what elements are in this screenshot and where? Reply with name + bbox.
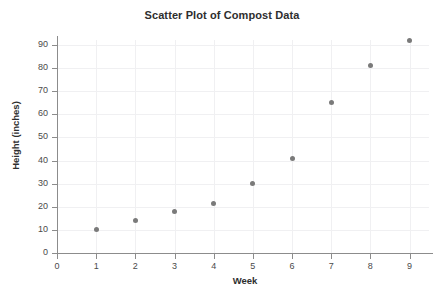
gridline-horizontal (57, 230, 429, 231)
x-axis-label: Week (57, 275, 433, 286)
gridline-horizontal (57, 114, 429, 115)
gridline-vertical (370, 40, 371, 253)
gridline-vertical (253, 40, 254, 253)
gridline-vertical (410, 40, 411, 253)
x-axis-tick-label: 1 (86, 261, 106, 271)
y-axis-tick (52, 114, 57, 115)
x-axis-tick-label: 8 (360, 261, 380, 271)
x-axis-tick-label: 4 (204, 261, 224, 271)
y-axis-tick-label: 70 (18, 85, 48, 95)
x-axis-tick (96, 254, 97, 259)
y-axis-tick-label: 50 (18, 131, 48, 141)
y-axis-tick-label: 20 (18, 201, 48, 211)
x-axis-tick-label: 5 (243, 261, 263, 271)
y-axis-tick-label: 80 (18, 62, 48, 72)
x-axis-tick (175, 254, 176, 259)
scatter-plot-figure: Scatter Plot of Compost Data Height (inc… (0, 0, 444, 295)
data-point (290, 156, 295, 161)
chart-title: Scatter Plot of Compost Data (0, 9, 444, 21)
x-axis-line (57, 253, 433, 254)
y-axis-tick (52, 91, 57, 92)
x-axis-tick (135, 254, 136, 259)
x-axis-tick (370, 254, 371, 259)
x-axis-tick-label: 0 (47, 261, 67, 271)
gridline-horizontal (57, 68, 429, 69)
data-point (250, 181, 255, 186)
y-axis-tick-label: 60 (18, 108, 48, 118)
x-axis-tick (253, 254, 254, 259)
gridline-horizontal (57, 137, 429, 138)
x-axis-tick (331, 254, 332, 259)
gridline-horizontal (57, 91, 429, 92)
y-axis-tick (52, 230, 57, 231)
y-axis-tick (52, 207, 57, 208)
x-axis-tick-label: 9 (400, 261, 420, 271)
y-axis-tick-label: 40 (18, 155, 48, 165)
x-axis-tick-label: 2 (125, 261, 145, 271)
plot-area (57, 40, 429, 253)
gridline-vertical (96, 40, 97, 253)
y-axis-tick (52, 184, 57, 185)
data-point (94, 227, 99, 232)
y-axis-tick-label: 30 (18, 178, 48, 188)
data-point (211, 201, 216, 206)
gridline-vertical (175, 40, 176, 253)
data-point (172, 209, 177, 214)
y-axis-tick (52, 137, 57, 138)
gridline-horizontal (57, 184, 429, 185)
x-axis-tick (214, 254, 215, 259)
x-axis-tick (57, 254, 58, 259)
gridline-horizontal (57, 161, 429, 162)
y-axis-tick-label: 10 (18, 224, 48, 234)
data-point (329, 100, 334, 105)
x-axis-tick (292, 254, 293, 259)
gridline-horizontal (57, 45, 429, 46)
gridline-horizontal (57, 207, 429, 208)
gridline-vertical (331, 40, 332, 253)
data-point (133, 218, 138, 223)
y-axis-tick-label: 90 (18, 39, 48, 49)
y-axis-tick-label: 0 (18, 247, 48, 257)
y-axis-tick (52, 45, 57, 46)
x-axis-tick-label: 7 (321, 261, 341, 271)
y-axis-tick (52, 68, 57, 69)
x-axis-tick-label: 3 (165, 261, 185, 271)
data-point (407, 38, 412, 43)
gridline-vertical (214, 40, 215, 253)
x-axis-tick (410, 254, 411, 259)
gridline-vertical (292, 40, 293, 253)
x-axis-tick-label: 6 (282, 261, 302, 271)
y-axis-tick (52, 161, 57, 162)
y-axis-line (57, 36, 58, 253)
